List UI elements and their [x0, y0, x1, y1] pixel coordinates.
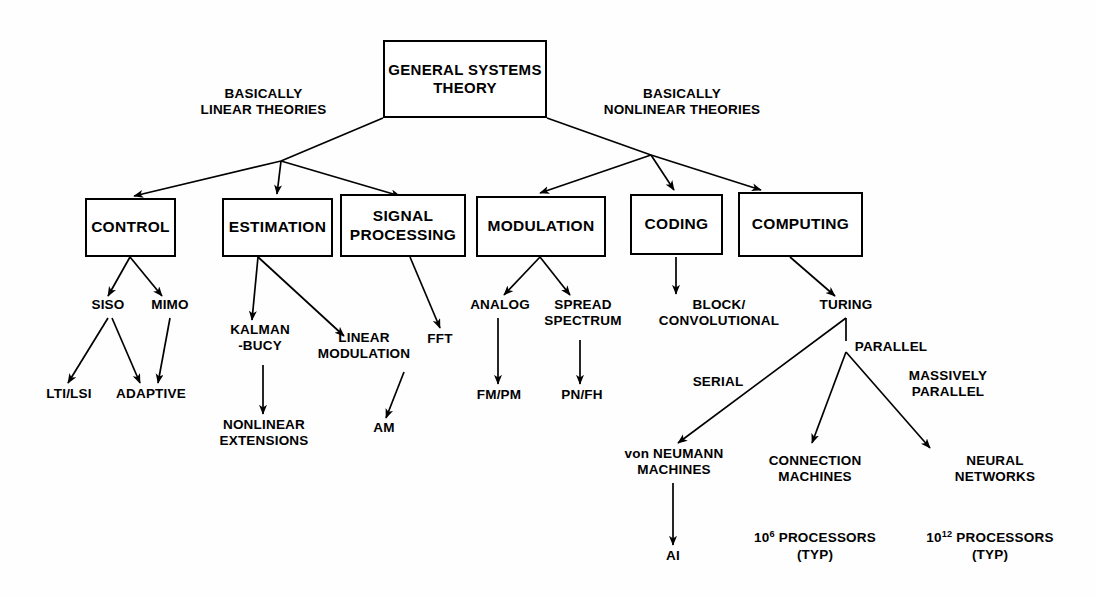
leaf-turing[interactable]: TURING — [808, 297, 884, 313]
leaf-siso[interactable]: SISO — [78, 297, 138, 313]
leaf-am[interactable]: AM — [358, 420, 410, 436]
edge-label-basically-nonlinear-theories: BASICALLY NONLINEAR THEORIES — [592, 86, 772, 119]
leaf-kalman-bucy[interactable]: KALMAN -BUCY — [213, 322, 307, 355]
leaf-fft[interactable]: FFT — [414, 331, 466, 347]
note-exponent: 12 — [942, 529, 953, 539]
node-control[interactable]: CONTROL — [85, 198, 176, 257]
leaf-mimo[interactable]: MIMO — [138, 297, 202, 313]
note-prefix: 10 — [926, 530, 941, 545]
leaf-nonlinear-extensions[interactable]: NONLINEAR EXTENSIONS — [208, 417, 320, 450]
note-prefix: 10 — [754, 530, 769, 545]
leaf-lti-lsi[interactable]: LTI/LSI — [33, 386, 105, 402]
leaf-analog[interactable]: ANALOG — [462, 297, 538, 313]
note-neural-networks-processors: 1012 PROCESSORS (TYP) — [910, 514, 1070, 563]
leaf-spread-spectrum[interactable]: SPREAD SPECTRUM — [538, 297, 628, 330]
leaf-connection-machines[interactable]: CONNECTION MACHINES — [755, 453, 875, 486]
node-signal-processing[interactable]: SIGNAL PROCESSING — [340, 194, 466, 257]
node-estimation[interactable]: ESTIMATION — [222, 198, 333, 257]
leaf-fm-pm[interactable]: FM/PM — [464, 387, 534, 403]
edge-label-serial: SERIAL — [683, 374, 753, 390]
leaf-ai[interactable]: AI — [648, 548, 698, 564]
leaf-von-neumann-machines[interactable]: von NEUMANN MACHINES — [613, 446, 735, 479]
note-suffix: PROCESSORS (TYP) — [775, 530, 876, 561]
edge-label-massively-parallel: MASSIVELY PARALLEL — [898, 368, 998, 401]
edge-label-parallel: PARALLEL — [846, 339, 936, 355]
leaf-block-convolutional[interactable]: BLOCK/ CONVOLUTIONAL — [655, 297, 783, 330]
node-general-systems-theory[interactable]: GENERAL SYSTEMS THEORY — [383, 40, 547, 118]
node-computing[interactable]: COMPUTING — [738, 192, 863, 257]
diagram-canvas: GENERAL SYSTEMS THEORY BASICALLY LINEAR … — [0, 0, 1097, 598]
leaf-neural-networks[interactable]: NEURAL NETWORKS — [935, 453, 1055, 486]
node-coding[interactable]: CODING — [630, 194, 723, 255]
leaf-linear-modulation[interactable]: LINEAR MODULATION — [308, 330, 420, 363]
leaf-adaptive[interactable]: ADAPTIVE — [105, 386, 197, 402]
edge-label-basically-linear-theories: BASICALLY LINEAR THEORIES — [196, 86, 331, 119]
note-connection-machines-processors: 106 PROCESSORS (TYP) — [740, 514, 890, 563]
node-modulation[interactable]: MODULATION — [476, 196, 606, 257]
leaf-pn-fh[interactable]: PN/FH — [547, 387, 617, 403]
note-suffix: PROCESSORS (TYP) — [952, 530, 1053, 561]
